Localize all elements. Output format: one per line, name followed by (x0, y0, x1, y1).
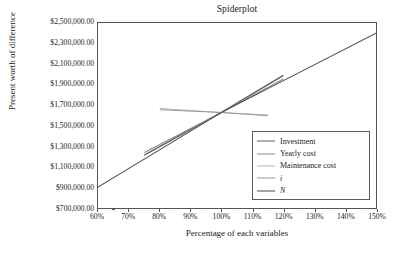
x-tick-label: 80% (152, 212, 166, 221)
legend-item[interactable]: Yearly cost (257, 147, 365, 159)
legend-box: InvestmentYearly costMaintenance costiN (252, 131, 370, 200)
x-axis-tick-labels: 60%70%80%90%100%110%120%130%140%150% (97, 212, 377, 226)
y-tick-label: $1,900,000.00 (50, 80, 94, 88)
legend-item-label: Maintenance cost (280, 161, 336, 170)
x-tick-label: 100% (213, 212, 231, 221)
x-tick-mark (97, 209, 98, 212)
x-tick-mark (315, 209, 316, 212)
legend-item[interactable]: Investment (257, 135, 365, 147)
x-tick-label: 70% (121, 212, 135, 221)
legend-item-label: i (280, 174, 282, 183)
x-tick-label: 90% (183, 212, 197, 221)
y-tick-label: $1,300,000.00 (50, 143, 94, 151)
legend-item[interactable]: Maintenance cost (257, 160, 365, 172)
legend-item[interactable]: i (257, 172, 365, 184)
legend-line-swatch (257, 188, 275, 194)
y-tick-label: $2,100,000.00 (50, 60, 94, 68)
x-tick-label: 140% (337, 212, 355, 221)
y-tick-label: $900,000.00 (56, 184, 94, 192)
x-tick-mark (190, 209, 191, 212)
spiderplot-figure: Spiderplot Present worth of difference $… (0, 0, 405, 256)
series-line (160, 110, 268, 116)
legend-item-label: Investment (280, 137, 316, 146)
y-tick-mark (112, 209, 115, 210)
legend-line-swatch (257, 138, 275, 144)
x-axis-title: Percentage of each variables (97, 228, 377, 238)
y-axis-title: Present worth of difference (7, 0, 17, 136)
legend-line-swatch (257, 151, 275, 157)
legend-line-swatch (257, 163, 275, 169)
x-tick-mark (346, 209, 347, 212)
y-tick-label: $2,500,000.00 (50, 18, 94, 26)
x-tick-label: 110% (244, 212, 261, 221)
chart-title: Spiderplot (97, 4, 377, 14)
x-tick-mark (284, 209, 285, 212)
legend-line-swatch (257, 175, 275, 181)
x-tick-mark (253, 209, 254, 212)
y-tick-label: $1,700,000.00 (50, 101, 94, 109)
legend-item-label: N (280, 186, 285, 195)
y-tick-label: $2,300,000.00 (50, 39, 94, 47)
legend-item-label: Yearly cost (280, 149, 316, 158)
y-tick-label: $1,100,000.00 (50, 163, 94, 171)
x-tick-label: 130% (306, 212, 324, 221)
x-tick-label: 150% (368, 212, 386, 221)
x-tick-mark (128, 209, 129, 212)
y-tick-label: $1,500,000.00 (50, 122, 94, 130)
x-tick-label: 120% (275, 212, 293, 221)
legend-item[interactable]: N (257, 185, 365, 197)
y-tick-label: $700,000.00 (56, 205, 94, 213)
x-tick-mark (159, 209, 160, 212)
x-tick-mark (377, 209, 378, 212)
x-tick-label: 60% (90, 212, 104, 221)
x-tick-mark (221, 209, 222, 212)
y-axis-tick-labels: $2,500,000.00$2,300,000.00$2,100,000.00$… (18, 22, 94, 209)
